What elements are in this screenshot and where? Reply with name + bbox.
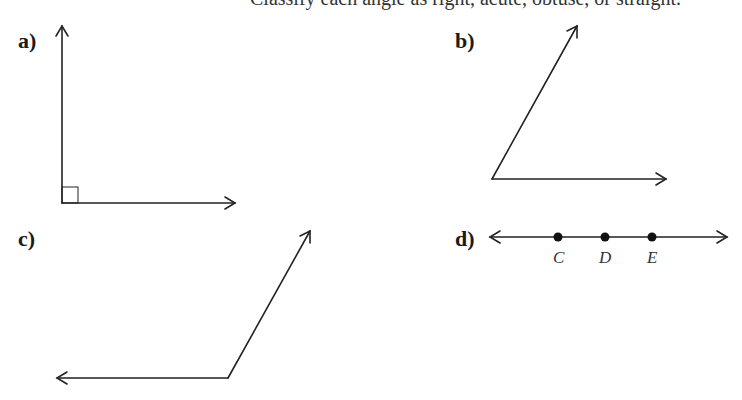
figure-b-acute-angle (492, 26, 666, 185)
point-e-dot (648, 233, 657, 242)
point-e-label: E (646, 248, 658, 267)
figure-c-obtuse-angle (57, 231, 310, 384)
geometry-figures: C D E (0, 0, 742, 400)
point-c-dot (554, 233, 563, 242)
point-c-label: C (553, 248, 565, 267)
figure-a-right-angle (56, 26, 235, 209)
right-angle-marker-icon (62, 187, 78, 203)
point-d-label: D (598, 248, 612, 267)
point-d-dot (601, 233, 610, 242)
